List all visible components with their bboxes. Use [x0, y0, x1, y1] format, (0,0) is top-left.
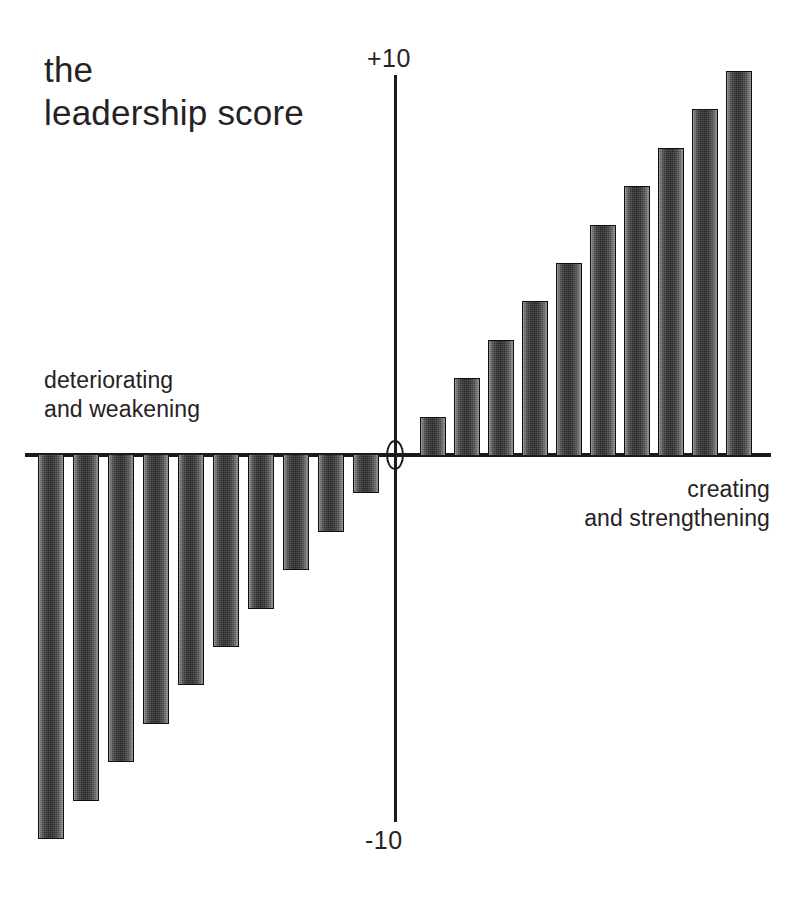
bar-positive — [692, 109, 718, 455]
bar-positive — [726, 71, 752, 455]
bar-positive — [522, 301, 548, 455]
bars-layer — [0, 0, 794, 917]
bar-positive — [420, 417, 446, 455]
bar-negative — [318, 455, 344, 532]
bar-negative — [213, 455, 239, 647]
bar-negative — [143, 455, 169, 724]
bar-negative — [73, 455, 99, 801]
bar-positive — [488, 340, 514, 455]
bar-negative — [283, 455, 309, 570]
bar-negative — [178, 455, 204, 685]
bar-positive — [658, 148, 684, 455]
bar-negative — [248, 455, 274, 609]
bar-positive — [454, 378, 480, 455]
bar-positive — [556, 263, 582, 455]
bar-negative — [38, 455, 64, 839]
bar-negative — [353, 455, 379, 493]
leadership-score-chart: the leadership score deteriorating and w… — [0, 0, 794, 917]
bar-negative — [108, 455, 134, 762]
bar-positive — [590, 225, 616, 455]
bar-positive — [624, 186, 650, 455]
